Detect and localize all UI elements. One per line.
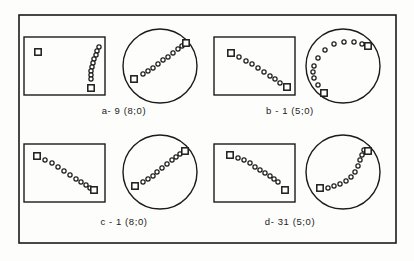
panel-c-rect-square-0	[34, 153, 40, 159]
panel-c-circle-circle-0	[141, 180, 145, 184]
panel-b-circle-circle-7	[342, 40, 346, 44]
panel-d-rect-circle-7	[272, 177, 276, 181]
panel-c-rect-circle-2	[56, 165, 60, 169]
panel-c-circle-circle-4	[160, 166, 164, 170]
panel-d-caption: d- 31 (5;0)	[265, 216, 315, 227]
panel-c-rect-circle-5	[74, 177, 78, 181]
figure-root: a- 9 (8;0)b - 1 (5;0)c - 1 (8;0)d- 31 (5…	[0, 0, 414, 261]
panel-d-rect-square-0	[227, 152, 233, 158]
panel-a-circle-circle-0	[141, 72, 145, 76]
panel-c-rect-circle-1	[50, 161, 54, 165]
panel-c-circle-circle-5	[165, 162, 169, 166]
panel-a-circle-circle-2	[151, 66, 155, 70]
panel-c-rect-circle-4	[68, 173, 72, 177]
panel-d-circle-circle-2	[338, 182, 342, 186]
panel-a-circle-square-0	[131, 76, 137, 82]
panel-b-circle-circle-0	[316, 83, 320, 87]
panel-c-rect-circle-7	[84, 183, 88, 187]
panel-a-circle-square-1	[183, 40, 189, 46]
panel-a-circle-circle-5	[166, 55, 170, 59]
panel-b-rect-circle-4	[262, 70, 266, 74]
panel-d-circle-square-0	[317, 185, 323, 191]
panel-b-circle-circle-2	[311, 70, 315, 74]
panel-b-circle-circle-6	[332, 42, 336, 46]
panel-b-circle-square-1	[365, 43, 371, 49]
figure-canvas: a- 9 (8;0)b - 1 (5;0)c - 1 (8;0)d- 31 (5…	[0, 0, 414, 261]
panel-d-rect-circle-2	[248, 161, 252, 165]
panel-c-circle-circle-2	[151, 174, 155, 178]
panel-d-circle-circle-8	[360, 153, 364, 157]
panel-d-circle-square-1	[365, 148, 371, 154]
panel-b-circle-circle-3	[312, 64, 316, 68]
panel-d-rect-circle-3	[253, 165, 257, 169]
figure-background	[0, 0, 414, 261]
panel-d-rect-circle-0	[236, 156, 240, 160]
panel-d-rect-square-1	[282, 187, 288, 193]
panel-a-rect-square-0	[35, 49, 41, 55]
panel-c-circle-square-1	[182, 148, 188, 154]
panel-d-circle-circle-7	[358, 158, 362, 162]
panel-b-rect-square-0	[228, 50, 234, 56]
panel-a-circle-circle-4	[161, 58, 165, 62]
panel-b-rect-circle-3	[256, 66, 260, 70]
panel-d-circle-circle-4	[349, 175, 353, 179]
panel-c-rect-circle-0	[43, 158, 47, 162]
panel-b-rect-circle-6	[273, 77, 277, 81]
panel-c-circle-circle-6	[170, 158, 174, 162]
panel-d-circle-circle-6	[356, 164, 360, 168]
panel-b-rect-circle-2	[250, 62, 254, 66]
panel-c-circle-circle-1	[146, 177, 150, 181]
panel-c-caption: c - 1 (8;0)	[100, 216, 147, 227]
panel-d-circle-circle-0	[326, 186, 330, 190]
panel-a-circle-circle-7	[176, 47, 180, 51]
panel-b-circle-circle-8	[352, 40, 356, 44]
panel-c-rect-circle-3	[62, 169, 66, 173]
panel-c-rect-square-1	[91, 187, 97, 193]
panel-b-circle-circle-9	[360, 42, 364, 46]
panel-b-caption: b - 1 (5;0)	[266, 105, 314, 116]
panel-b-rect-circle-7	[278, 81, 282, 85]
panel-b-rect-square-1	[284, 84, 290, 90]
panel-d-circle-circle-1	[332, 184, 336, 188]
panel-d-rect-circle-4	[258, 168, 262, 172]
panel-d-rect-circle-6	[268, 174, 272, 178]
panel-c-circle-square-0	[132, 183, 138, 189]
panel-a-circle-circle-6	[171, 51, 175, 55]
panel-a-circle-circle-3	[156, 62, 160, 66]
panel-d-rect-circle-1	[242, 158, 246, 162]
panel-b-rect-circle-1	[244, 59, 248, 63]
panel-a-caption: a- 9 (8;0)	[102, 105, 147, 116]
panel-d-rect-circle-8	[276, 180, 280, 184]
panel-d-rect-circle-5	[263, 171, 267, 175]
panel-c-rect-circle-6	[79, 180, 83, 184]
panel-d-circle-circle-5	[353, 170, 357, 174]
panel-d-circle-circle-3	[344, 179, 348, 183]
panel-b-rect-circle-0	[237, 55, 241, 59]
panel-b-circle-circle-4	[316, 56, 320, 60]
panel-b-circle-circle-1	[312, 76, 316, 80]
panel-c-circle-circle-3	[155, 170, 159, 174]
panel-c-circle-circle-7	[174, 155, 178, 159]
panel-a-circle-circle-1	[146, 69, 150, 73]
panel-a-rect-circle-8	[89, 77, 93, 81]
panel-a-rect-square-1	[88, 85, 94, 91]
panel-b-rect-circle-5	[268, 74, 272, 78]
panel-b-circle-square-0	[321, 90, 327, 96]
panel-b-circle-circle-5	[323, 48, 327, 52]
